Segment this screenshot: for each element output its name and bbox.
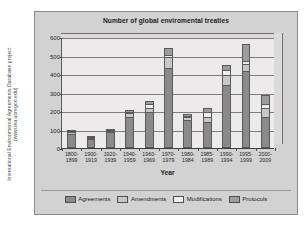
bar-stack[interactable] (67, 130, 76, 148)
x-axis-tick-label-line: 1899 (65, 157, 79, 163)
x-tick-mark (256, 148, 257, 151)
bar-segment (106, 132, 115, 148)
bar-segment (261, 95, 270, 103)
bar-stack[interactable] (125, 110, 134, 148)
chart-legend: AgreementsAmendmentsModificationsProtoco… (41, 190, 291, 207)
chart-panel: Number of global enviromental treaties 0… (34, 11, 298, 215)
y-tick-mark (60, 131, 62, 132)
x-tick-mark (120, 148, 121, 151)
source-caption-line-2: (www.iea.uoregon.edu) (12, 24, 18, 204)
bar-stack[interactable] (164, 48, 173, 148)
x-tick-mark (81, 148, 82, 151)
x-axis-tick-label-line: 1919 (84, 157, 98, 163)
bar-segment (242, 71, 251, 148)
legend-item[interactable]: Modifications (173, 196, 222, 203)
x-axis-title: Year (61, 169, 274, 176)
chart-title: Number of global enviromental treaties (35, 17, 297, 24)
x-axis-tick-label: 2000-2009 (259, 151, 273, 163)
y-axis-tick-label: 400 (50, 72, 60, 78)
bar-segment (222, 85, 231, 148)
bar-segment (242, 64, 251, 71)
y-tick-mark (60, 75, 62, 76)
x-axis-tick-label-line: 1939 (104, 157, 118, 163)
legend-item-label: Modifications (187, 196, 222, 202)
x-axis-tick-label-line: 1984 (181, 157, 195, 163)
bar-segment (242, 44, 251, 62)
bar-segment (67, 134, 76, 148)
y-axis-tick-label: 0 (57, 146, 60, 152)
x-axis-tick-label: 1980-1984 (181, 151, 195, 163)
bar-segment (87, 139, 96, 148)
bar-stack[interactable] (145, 101, 154, 148)
plot-wrapper: 01002003004005006001800-18991900-1919192… (61, 33, 283, 149)
x-axis-tick-label-line: 1959 (123, 157, 137, 163)
x-tick-mark (178, 148, 179, 151)
x-axis-tick-label-line: 1994 (220, 157, 234, 163)
x-tick-mark (198, 148, 199, 151)
x-tick-mark (236, 148, 237, 151)
legend-swatch-icon (65, 196, 76, 203)
x-axis-tick-label-line: 2009 (259, 157, 273, 163)
bar-segment (164, 57, 173, 68)
x-axis-tick-label: 1800-1899 (65, 151, 79, 163)
x-tick-mark (62, 148, 63, 151)
x-axis-tick-label: 1985-1989 (200, 151, 214, 163)
x-tick-mark (139, 148, 140, 151)
x-tick-mark (159, 148, 160, 151)
chart-figure: International Environmental Agreements D… (0, 0, 307, 235)
x-axis-tick-label-line: 1989 (200, 157, 214, 163)
x-axis-tick-label: 1995-1999 (239, 151, 253, 163)
legend-swatch-icon (173, 196, 184, 203)
bar-segment (125, 117, 134, 148)
bar-segment (145, 112, 154, 148)
legend-item-label: Agreements (78, 196, 110, 202)
bar-stack[interactable] (222, 65, 231, 148)
x-axis-tick-label-line: 1969 (142, 157, 156, 163)
bar-segment (183, 120, 192, 148)
y-tick-mark (60, 38, 62, 39)
bar-stack[interactable] (183, 114, 192, 148)
x-tick-mark (101, 148, 102, 151)
x-axis-tick-label: 1920-1939 (104, 151, 118, 163)
bar-stack[interactable] (203, 108, 212, 148)
bar-segment (164, 68, 173, 148)
y-tick-mark (60, 112, 62, 113)
x-tick-mark (275, 148, 276, 151)
y-axis-tick-label: 100 (50, 128, 60, 134)
legend-item[interactable]: Amendments (117, 196, 166, 203)
y-axis-tick-label: 600 (50, 35, 60, 41)
bar-stack[interactable] (106, 129, 115, 148)
x-axis-tick-label: 1900-1919 (84, 151, 98, 163)
x-axis-tick-label-line: 1979 (162, 157, 176, 163)
y-tick-mark (60, 94, 62, 95)
legend-swatch-icon (229, 196, 240, 203)
plot-area: 01002003004005006001800-18991900-1919192… (61, 38, 274, 149)
bar-stack[interactable] (261, 95, 270, 148)
legend-item[interactable]: Agreements (65, 196, 111, 203)
legend-item[interactable]: Protocols (229, 196, 268, 203)
legend-swatch-icon (117, 196, 128, 203)
y-axis-tick-label: 200 (50, 109, 60, 115)
bar-segment (222, 75, 231, 85)
bar-segment (203, 122, 212, 148)
y-axis-tick-label: 300 (50, 91, 60, 97)
y-axis-tick-label: 500 (50, 54, 60, 60)
x-axis-tick-label: 1970-1979 (162, 151, 176, 163)
bar-stack[interactable] (242, 44, 251, 148)
plot-right-wall (274, 33, 283, 144)
legend-item-label: Amendments (131, 196, 166, 202)
source-caption: International Environmental Agreements D… (0, 30, 24, 210)
x-axis-tick-label: 1960-1969 (142, 151, 156, 163)
y-tick-mark (60, 57, 62, 58)
x-tick-mark (217, 148, 218, 151)
x-axis-tick-label: 1940-1959 (123, 151, 137, 163)
legend-item-label: Protocols (242, 196, 267, 202)
bar-stack[interactable] (87, 136, 96, 148)
y-gridline (62, 38, 274, 39)
x-axis-tick-label: 1990-1994 (220, 151, 234, 163)
x-axis-tick-label-line: 1999 (239, 157, 253, 163)
bar-segment (261, 117, 270, 148)
bar-segment (261, 108, 270, 116)
